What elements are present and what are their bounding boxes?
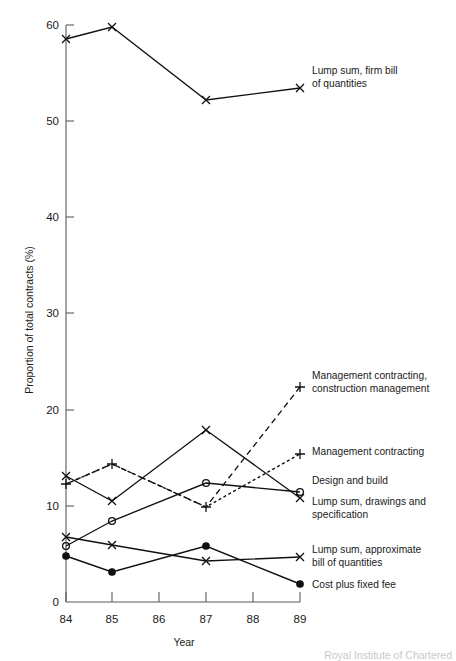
annotation-cost-plus-fixed-fee: Cost plus fixed fee <box>312 579 396 590</box>
series-line <box>66 430 300 501</box>
marker-plus <box>295 449 305 459</box>
annotation-management-contracting: Management contracting <box>312 446 424 457</box>
marker-dot <box>63 543 303 587</box>
marker-cross <box>62 533 304 565</box>
series-line <box>66 27 300 100</box>
x-label-84: 84 <box>60 613 73 625</box>
y-label-0: 0 <box>53 596 59 608</box>
series-lump-sum-approximate-bill <box>62 533 304 565</box>
annotation-management-construction-line1: Management contracting, <box>312 370 427 381</box>
series-line <box>66 537 300 561</box>
series-line <box>66 546 300 584</box>
annotation-lump-sum-drawings-line2: specification <box>312 509 368 520</box>
series-annotations: Lump sum, firm bill of quantities Manage… <box>312 65 429 590</box>
y-label-40: 40 <box>46 211 59 223</box>
x-axis-title: Year <box>173 636 195 648</box>
annotation-lump-sum-approximate-line2: bill of quantities <box>312 557 382 568</box>
series-lump-sum-firm-bill <box>62 23 304 104</box>
series-line <box>66 483 300 546</box>
y-axis-title: Proportion of total contracts (%) <box>23 246 35 394</box>
x-tick-labels: 84 85 86 87 88 89 <box>60 613 307 625</box>
line-chart-svg: 60 50 40 30 20 10 0 84 85 86 87 88 89 Ye… <box>0 0 456 661</box>
x-label-89: 89 <box>294 613 307 625</box>
x-label-88: 88 <box>247 613 260 625</box>
y-tick-labels: 60 50 40 30 20 10 0 <box>46 19 59 608</box>
x-label-87: 87 <box>200 613 213 625</box>
series-lump-sum-drawings-specification <box>62 426 304 505</box>
annotation-lump-sum-firm-bill-line2: of quantities <box>312 78 367 89</box>
y-label-10: 10 <box>46 500 59 512</box>
y-label-30: 30 <box>46 307 59 319</box>
annotation-design-and-build: Design and build <box>312 475 388 486</box>
annotation-lump-sum-approximate-line1: Lump sum, approximate <box>312 544 422 555</box>
series-cost-plus-fixed-fee <box>63 543 303 587</box>
chart-figure: 60 50 40 30 20 10 0 84 85 86 87 88 89 Ye… <box>0 0 456 661</box>
annotation-lump-sum-drawings-line1: Lump sum, drawings and <box>312 496 426 507</box>
series-design-and-build <box>63 480 304 550</box>
series-line <box>66 454 300 507</box>
footer-caption: Royal Institute of Chartered <box>324 649 452 661</box>
y-label-20: 20 <box>46 404 59 416</box>
axis-group <box>66 25 300 602</box>
x-label-85: 85 <box>106 613 119 625</box>
y-label-60: 60 <box>46 19 59 31</box>
annotation-lump-sum-firm-bill-line1: Lump sum, firm bill <box>312 65 397 76</box>
marker-circle <box>63 480 304 550</box>
annotation-management-construction-line2: construction management <box>312 383 429 394</box>
y-label-50: 50 <box>46 115 59 127</box>
series-management-contracting <box>66 449 305 507</box>
x-label-86: 86 <box>153 613 166 625</box>
